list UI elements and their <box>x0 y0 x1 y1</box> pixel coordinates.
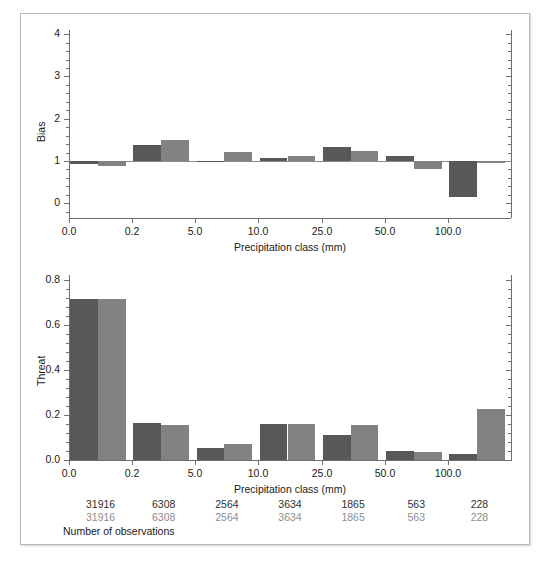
x-tick <box>195 218 196 223</box>
y-tick-minor-right <box>508 316 512 317</box>
y-tick-minor-right <box>508 110 512 111</box>
y-tick-minor <box>66 178 70 179</box>
y-tick-label: 1 <box>21 155 60 166</box>
y-tick-minor <box>66 93 70 94</box>
y-tick-label: 0.6 <box>21 319 60 330</box>
observation-count: 563 <box>386 511 446 524</box>
observation-count: 563 <box>386 498 446 511</box>
observation-count: 31916 <box>71 511 131 524</box>
y-tick-minor-right <box>508 289 512 290</box>
y-tick-minor-right <box>508 433 512 434</box>
x-tick <box>322 218 323 223</box>
y-tick-major <box>64 76 70 77</box>
x-tick-label: 25.0 <box>298 226 346 237</box>
bar <box>224 152 252 161</box>
y-tick-label: 0.8 <box>21 274 60 285</box>
x-tick-label: 5.0 <box>171 226 219 237</box>
y-tick-minor-right <box>508 136 512 137</box>
y-tick-major <box>64 203 70 204</box>
bar <box>70 299 98 460</box>
y-tick-major <box>64 325 70 326</box>
y-tick-minor <box>66 127 70 128</box>
y-tick-minor-right <box>508 334 512 335</box>
y-tick-minor <box>66 136 70 137</box>
bar <box>288 424 316 460</box>
y-tick-label: 0.4 <box>21 364 60 375</box>
y-tick-major <box>64 415 70 416</box>
bar <box>351 425 379 460</box>
bar <box>386 451 414 461</box>
y-tick-minor-right <box>508 388 512 389</box>
x-tick <box>448 218 449 223</box>
figure-frame: Bias Precipitation class (mm) 012340.00.… <box>20 13 530 545</box>
bar <box>260 158 288 161</box>
observation-count: 228 <box>449 498 509 511</box>
bar <box>288 156 316 161</box>
y-tick-major-right <box>506 460 512 461</box>
y-tick-major-right <box>506 280 512 281</box>
y-tick-minor-right <box>508 93 512 94</box>
x-tick <box>69 460 70 465</box>
x-axis-line <box>69 460 511 461</box>
observation-count: 1865 <box>323 511 383 524</box>
bar <box>70 161 98 164</box>
y-tick-label: 0.0 <box>21 454 60 465</box>
x-tick <box>258 218 259 223</box>
y-tick-minor-right <box>508 51 512 52</box>
observation-count: 1865 <box>323 498 383 511</box>
y-tick-label: 3 <box>21 70 60 81</box>
y-tick-minor <box>66 144 70 145</box>
y-axis-label-bias: Bias <box>35 122 47 142</box>
y-tick-minor-right <box>508 397 512 398</box>
x-tick <box>385 460 386 465</box>
observations-table: 3191663082564363418655632283191663082564… <box>21 498 531 544</box>
bar <box>323 435 351 461</box>
y-tick-minor-right <box>508 127 512 128</box>
bar <box>414 161 442 169</box>
bar <box>477 409 505 460</box>
bar <box>449 454 477 460</box>
observations-caption: Number of observations <box>63 525 174 537</box>
chart-threat: Threat Precipitation class (mm) 0.00.20.… <box>21 259 531 494</box>
y-tick-major-right <box>506 34 512 35</box>
y-tick-major <box>64 34 70 35</box>
x-tick <box>132 460 133 465</box>
y-tick-minor-right <box>508 442 512 443</box>
y-tick-major <box>64 370 70 371</box>
y-tick-minor-right <box>508 361 512 362</box>
y-tick-minor-right <box>508 153 512 154</box>
y-tick-minor-right <box>508 68 512 69</box>
x-tick-label: 100.0 <box>424 468 472 479</box>
x-tick <box>69 218 70 223</box>
observation-count: 2564 <box>197 511 257 524</box>
y-tick-minor-right <box>508 343 512 344</box>
y-tick-minor-right <box>508 144 512 145</box>
bar <box>224 444 252 460</box>
bar <box>323 147 351 161</box>
y-tick-minor-right <box>508 102 512 103</box>
x-axis-line <box>69 218 511 219</box>
y-tick-label: 0.2 <box>21 409 60 420</box>
bar <box>414 452 442 460</box>
y-axis-line <box>69 30 70 218</box>
y-tick-label: 4 <box>21 28 60 39</box>
bar <box>477 161 505 163</box>
y-tick-minor-right <box>508 186 512 187</box>
x-tick-label: 0.0 <box>45 468 93 479</box>
x-tick-label: 50.0 <box>361 226 409 237</box>
x-tick <box>195 460 196 465</box>
bar <box>133 423 161 460</box>
x-tick-label: 0.2 <box>108 226 156 237</box>
y-tick-minor <box>66 195 70 196</box>
y-tick-major <box>64 119 70 120</box>
y-tick-minor <box>66 43 70 44</box>
y-tick-minor-right <box>508 195 512 196</box>
bar <box>161 425 189 460</box>
y-tick-minor <box>66 110 70 111</box>
y-tick-major-right <box>506 370 512 371</box>
baseline <box>69 161 511 162</box>
x-tick <box>258 460 259 465</box>
observation-count: 6308 <box>134 498 194 511</box>
y-tick-minor-right <box>508 451 512 452</box>
x-tick-label: 10.0 <box>234 468 282 479</box>
